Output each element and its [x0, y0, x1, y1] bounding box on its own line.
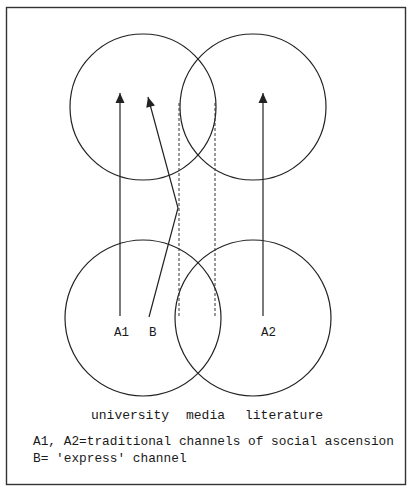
category-label-media: media — [186, 409, 225, 422]
category-label-university: university — [91, 409, 169, 422]
node-label-b: B — [149, 327, 157, 340]
legend-line-2: B= 'express' channel — [33, 453, 187, 466]
node-label-a1: A1 — [114, 327, 129, 340]
node-label-a2: A2 — [261, 327, 276, 340]
category-label-literature: literature — [245, 409, 323, 422]
legend-line-1: A1, A2=traditional channels of social as… — [33, 436, 394, 449]
